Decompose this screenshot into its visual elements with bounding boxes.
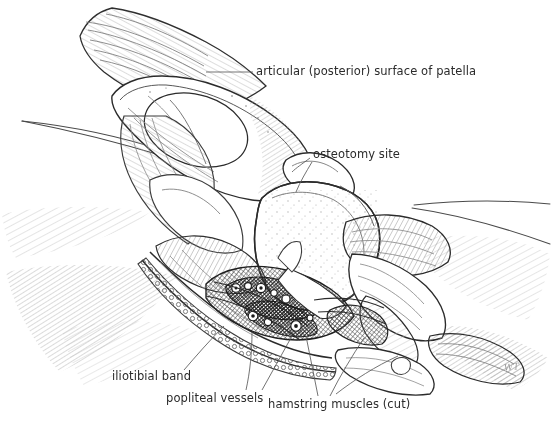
artist-signature: WT [504,361,520,373]
label-articular-surface-of-patella: articular (posterior) surface of patella [256,66,476,78]
label-hamstring-muscles-cut: hamstring muscles (cut) [268,399,410,411]
label-popliteal-vessels: popliteal vessels [166,393,263,405]
leader-popliteal-1 [246,332,252,390]
label-osteotomy-site: osteotomy site [313,149,400,161]
tissue-fragment [391,358,410,375]
label-iliotibial-band: iliotibial band [112,371,191,383]
anatomy-figure: articular (posterior) surface of patella… [0,0,552,424]
